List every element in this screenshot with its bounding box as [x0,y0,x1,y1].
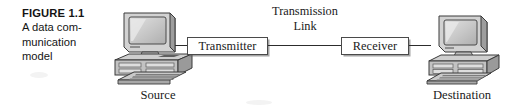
destination-label: Destination [414,88,510,103]
transmission-link-line-2: Link [255,19,355,34]
source-label-text: Source [141,88,176,102]
figure-caption-line-1: A data com- [22,20,104,35]
receiver-box: Receiver [341,37,409,55]
scan-artifact [246,100,272,105]
transmitter-box: Transmitter [187,37,268,55]
wire-transmission-link [268,45,341,46]
figure-number: FIGURE 1.1 [22,6,104,20]
source-label: Source [118,88,198,103]
wire-source-to-transmitter [175,45,187,46]
figure-caption-line-2: munication [22,35,104,50]
figure-caption-line-3: model [22,49,104,64]
figure-caption: FIGURE 1.1 A data com- munication model [22,6,104,64]
transmitter-label: Transmitter [198,39,256,54]
receiver-label: Receiver [353,39,398,54]
figure-container: FIGURE 1.1 A data com- munication model [0,0,515,108]
transmission-link-label: Transmission Link [255,4,355,33]
transmission-link-line-1: Transmission [255,4,355,19]
scan-artifact [30,72,48,78]
destination-label-text: Destination [433,88,491,102]
destination-computer-illustration [425,14,509,88]
